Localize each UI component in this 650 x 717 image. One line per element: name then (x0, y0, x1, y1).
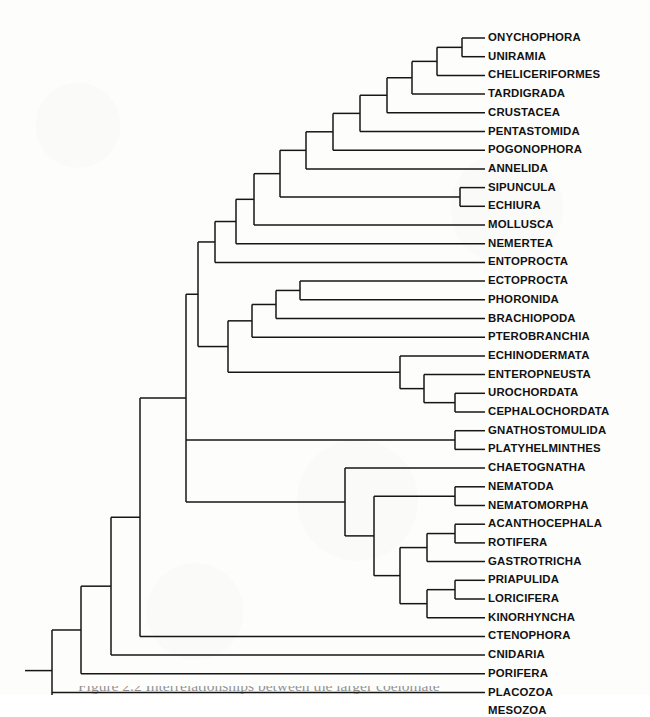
taxon-label-tardigrada: TARDIGRADA (488, 88, 565, 99)
taxon-label-platyhelminthes: PLATYHELMINTHES (488, 443, 601, 454)
taxon-label-kinorhyncha: KINORHYNCHA (488, 612, 575, 623)
taxon-label-entoprocta: ENTOPROCTA (488, 256, 568, 267)
taxon-label-sipuncula: SIPUNCULA (488, 182, 556, 193)
taxon-label-loricifera: LORICIFERA (488, 593, 559, 604)
taxon-label-echinodermata: ECHINODERMATA (488, 350, 590, 361)
taxon-label-pogonophora: POGONOPHORA (488, 144, 582, 155)
taxon-label-onychophora: ONYCHOPHORA (488, 32, 581, 43)
taxon-label-cheliceriformes: CHELICERIFORMES (488, 69, 600, 80)
taxon-label-annelida: ANNELIDA (488, 163, 548, 174)
taxon-label-porifera: PORIFERA (488, 668, 548, 679)
taxon-label-nematomorpha: NEMATOMORPHA (488, 500, 589, 511)
taxon-label-gastrotricha: GASTROTRICHA (488, 556, 582, 567)
taxon-label-chaetognatha: CHAETOGNATHA (488, 462, 586, 473)
taxon-label-cephalochordata: CEPHALOCHORDATA (488, 406, 609, 417)
taxon-label-acanthocephala: ACANTHOCEPHALA (488, 518, 602, 529)
figure-caption-clipped: Figure 2.2 Interrelationships between th… (78, 686, 578, 695)
taxon-label-gnathostomulida: GNATHOSTOMULIDA (488, 425, 606, 436)
caption-text: Figure 2.2 Interrelationships between th… (78, 686, 440, 695)
taxon-label-nematoda: NEMATODA (488, 481, 554, 492)
taxon-label-ectoprocta: ECTOPROCTA (488, 275, 568, 286)
taxon-label-pterobranchia: PTEROBRANCHIA (488, 331, 590, 342)
taxon-label-priapulida: PRIAPULIDA (488, 574, 559, 585)
taxon-label-phoronida: PHORONIDA (488, 294, 559, 305)
taxon-label-echiura: ECHIURA (488, 200, 541, 211)
taxon-label-nemertea: NEMERTEA (488, 238, 553, 249)
taxon-label-enteropneusta: ENTEROPNEUSTA (488, 369, 591, 380)
taxon-label-mollusca: MOLLUSCA (488, 219, 554, 230)
taxon-label-urochordata: UROCHORDATA (488, 387, 578, 398)
taxon-label-mesozoa: MESOZOA (488, 705, 547, 716)
taxon-label-uniramia: UNIRAMIA (488, 51, 546, 62)
taxon-label-crustacea: CRUSTACEA (488, 107, 560, 118)
taxon-label-pentastomida: PENTASTOMIDA (488, 126, 580, 137)
taxon-label-brachiopoda: BRACHIOPODA (488, 313, 576, 324)
taxon-label-ctenophora: CTENOPHORA (488, 630, 571, 641)
taxon-label-rotifera: ROTIFERA (488, 537, 547, 548)
taxon-label-cnidaria: CNIDARIA (488, 649, 545, 660)
